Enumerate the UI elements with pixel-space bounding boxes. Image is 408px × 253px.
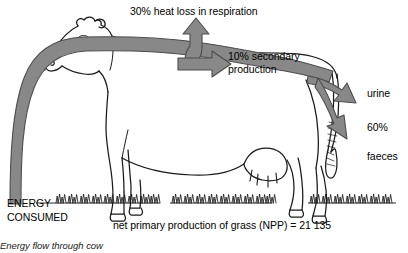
label-faeces: faeces bbox=[367, 150, 398, 163]
cow-haunch bbox=[306, 80, 318, 168]
cow-teats bbox=[250, 170, 277, 187]
cow-jaw bbox=[62, 66, 99, 74]
cow-flank-line bbox=[122, 130, 128, 158]
energy-flow-arrows bbox=[10, 18, 356, 204]
cow-belly bbox=[122, 158, 244, 175]
grass-band bbox=[36, 194, 396, 203]
cow-hind-leg-near bbox=[287, 158, 303, 210]
grass-tufts-middle bbox=[172, 194, 276, 203]
cow-tail-tuft bbox=[326, 149, 337, 178]
cow-hind-hoof bbox=[289, 210, 303, 217]
cow-hind-leg-far bbox=[313, 166, 326, 216]
cow-front-hoof-far bbox=[129, 208, 142, 215]
figure-caption: Energy flow through cow bbox=[0, 240, 103, 253]
label-faeces-percent: 60% bbox=[367, 121, 388, 134]
label-urine: urine bbox=[367, 87, 390, 100]
label-energy-consumed: ENERGY CONSUMED bbox=[7, 196, 81, 224]
label-secondary-production: 10% secondary production bbox=[228, 50, 320, 75]
cow-front-leg-near bbox=[106, 92, 124, 214]
label-net-primary-production: net primary production of grass (NPP) = … bbox=[113, 219, 331, 232]
grass-tufts-right bbox=[310, 194, 392, 203]
flow-urine-arrow bbox=[307, 76, 356, 103]
cow-throat bbox=[99, 71, 108, 92]
label-heat-loss: 30% heat loss in respiration bbox=[130, 5, 258, 18]
cow-front-leg-upper bbox=[122, 158, 124, 192]
